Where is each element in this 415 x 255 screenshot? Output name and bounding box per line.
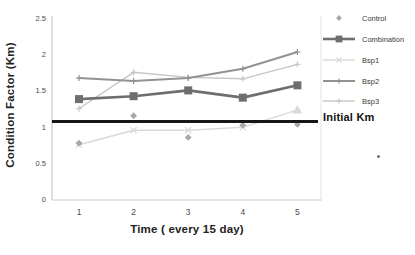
legend-label: Bsp2 (362, 77, 379, 86)
legend-label: Control (362, 14, 386, 23)
legend-label: Combination (362, 35, 404, 44)
chart-figure: 00.511.522.512345 Condition Factor (Km) … (0, 0, 415, 255)
x-tick-label: 4 (240, 207, 245, 217)
legend-swatch (322, 95, 356, 107)
y-tick-label: 0 (42, 195, 46, 204)
series-bsp1 (76, 105, 302, 147)
data-point-marker (130, 92, 138, 100)
data-point-marker (185, 134, 192, 141)
legend-marker (336, 36, 343, 43)
legend-swatch (322, 54, 356, 66)
y-axis-title: Condition Factor (Km) (4, 15, 18, 195)
data-point-marker (184, 86, 192, 94)
legend-item-combination: Combination (322, 32, 404, 46)
legend-item-bsp2: Bsp2 (322, 74, 379, 88)
x-tick-label: 1 (77, 207, 82, 217)
legend-item-control: Control (322, 11, 386, 25)
stray-mark (377, 155, 380, 158)
x-tick-label: 2 (131, 207, 136, 217)
data-point-marker (130, 112, 137, 119)
x-axis-title: Time ( every 15 day) (52, 223, 322, 235)
data-point-marker (75, 95, 83, 103)
legend-item-bsp3: Bsp3 (322, 94, 379, 108)
data-point-marker (239, 94, 247, 102)
data-point-marker (76, 140, 83, 147)
legend-label: Bsp3 (362, 97, 379, 106)
chart-legend: ControlCombinationBsp1Bsp2Bsp3 (322, 0, 414, 110)
y-tick-label: 0.5 (36, 159, 46, 168)
y-tick-label: 2 (42, 50, 46, 59)
data-point-marker (293, 81, 301, 89)
y-tick-label: 1 (42, 123, 46, 132)
initial-km-label: Initial Km (323, 111, 375, 123)
y-tick-label: 2.5 (36, 14, 46, 23)
legend-swatch (322, 33, 356, 45)
data-point-marker (292, 105, 302, 113)
legend-item-bsp1: Bsp1 (322, 53, 379, 67)
legend-marker (336, 15, 342, 21)
legend-swatch (322, 75, 356, 87)
x-tick-label: 5 (295, 207, 300, 217)
y-tick-label: 1.5 (36, 86, 46, 95)
series-bsp2 (76, 49, 300, 84)
x-tick-label: 3 (186, 207, 191, 217)
legend-label: Bsp1 (362, 56, 379, 65)
legend-swatch (322, 12, 356, 24)
series-combination (75, 81, 301, 103)
